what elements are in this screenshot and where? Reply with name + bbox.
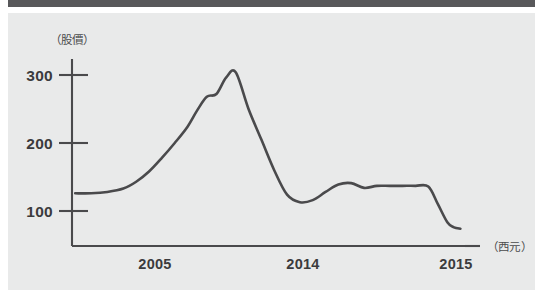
- figure-root: 300 200 100 （股價） （西元） 2005 2014 2015: [0, 0, 542, 305]
- y-tick-label-300: 300: [26, 67, 53, 84]
- y-tick-label-100: 100: [26, 203, 53, 220]
- x-tick-label-2005: 2005: [138, 256, 171, 272]
- x-tick-label-2014: 2014: [286, 256, 319, 272]
- chart-panel: 300 200 100 （股價） （西元） 2005 2014 2015: [8, 13, 535, 290]
- stock-price-line-chart: 300 200 100 （股價） （西元） 2005 2014 2015: [8, 13, 535, 290]
- price-series-line: [75, 70, 460, 228]
- x-axis-unit-label: （西元）: [487, 241, 532, 253]
- top-divider-rule: [8, 0, 535, 7]
- y-axis-unit-label: （股價）: [50, 33, 95, 46]
- y-tick-label-200: 200: [26, 135, 53, 152]
- x-tick-label-2015: 2015: [439, 256, 472, 272]
